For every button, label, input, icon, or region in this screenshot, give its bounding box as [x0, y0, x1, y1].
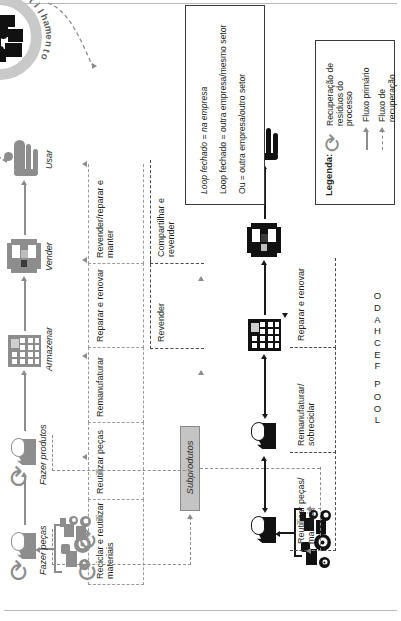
shop-icon-vender-open: [247, 223, 281, 257]
legend-box-notes: Loop fechado = na empresa Loop fechado =…: [185, 5, 265, 205]
flow-store-to-sell-open: [264, 263, 266, 315]
recovery-label-reutilizar-open: Reutilizar peças/ materiais: [296, 450, 316, 544]
arrow-usar-to-platform: [2, 157, 7, 163]
dashed-subprodutos-tap-produtos: [52, 435, 53, 471]
dashed-subprodutos-down-to-machinery: [320, 467, 321, 551]
arrow-band-reparar-open: [282, 313, 288, 318]
arrow-to-machinery-open-a: [306, 548, 311, 554]
flow-products-to-store-closed: [24, 373, 26, 431]
node-label-usar: Usar: [44, 150, 54, 169]
arrow-band-reutilizar: [82, 454, 87, 460]
arrow-open-to-vender: [198, 276, 204, 281]
axis-text-closed: LOOP FECHADO: [372, 289, 383, 425]
recycle-icon-fazer-produtos: ⟳: [6, 465, 32, 487]
dashed-subprodutos-up2: [52, 470, 191, 471]
warehouse-icon-armazenar-open: [248, 319, 281, 351]
bracket-leg-1: [54, 571, 62, 573]
legend-dashed-arrowhead: [379, 127, 385, 132]
warehouse-icon-armazenar: [8, 335, 41, 367]
arrow-products-to-store-open: [261, 354, 267, 359]
dashed-into-subprodutos-left: [190, 517, 191, 565]
shop-icon-vender: [7, 239, 41, 273]
dashed-machinery-stub-a: [312, 550, 321, 551]
legend-solid-arrow-icon: [366, 130, 368, 150]
legend-box-symbols: Legenda: ⟳ Recuperação de resíduos do pr…: [315, 40, 395, 205]
dashed-machinery-stub-b: [312, 508, 321, 509]
recycle-icon-fazer-pecas: ⟳: [6, 559, 32, 581]
recovery-label-reparar: Reparar e renovar: [95, 262, 105, 342]
node-label-fazer-produtos: Fazer produtos: [38, 424, 48, 485]
arrow-band-reutil-open: [262, 508, 268, 513]
recovery-label-remanufaturar: Remanufaturar: [95, 347, 105, 417]
flow-store-to-sell-closed: [24, 279, 26, 331]
arrow-parts-to-products-open: [261, 456, 267, 461]
legend-note-0: Loop fechado = na empresa: [200, 9, 210, 194]
flow-products-to-store-open: [264, 357, 266, 415]
bracket-leg-1-open: [294, 555, 302, 557]
legend-item-label-2: Fluxo de recuperação: [378, 42, 397, 122]
recovery-label-revender-manter: Revender/reparar e manter: [95, 166, 115, 258]
legend-dashed-arrow-icon: [382, 130, 383, 150]
arrow-platform-to-usar-open: [92, 63, 97, 69]
subprodutos-label: Subprodutos: [185, 425, 196, 510]
arrow-store-to-sell-closed: [21, 276, 27, 281]
factory-icon-fazer-pecas-open: [252, 515, 276, 547]
diagram-canvas: LOOP FECHADO LOOP ABERTO ⟳ ⟳ ⟳ Fazer p: [0, 0, 401, 621]
arrow-sell-to-use-closed: [21, 180, 27, 185]
flow-sell-to-use-closed: [24, 183, 26, 235]
legend-note-1: Loop fechado = outra empresa/mesmo setor: [219, 9, 229, 194]
arrow-products-to-store-closed: [21, 370, 27, 375]
recovery-label-compartilhar: Compartilhar e revender: [156, 161, 176, 257]
flow-parts-to-products-open: [264, 459, 266, 509]
recovery-label-reutilizar: Reutilizar peças: [95, 424, 105, 494]
dashed-subprodutos-tap-pecas: [52, 529, 53, 565]
dashed-subprodutos-up: [52, 564, 191, 565]
legend-note-2: Ou = outra empresa/outro setor: [238, 9, 248, 194]
recovery-label-reparar-open: Reparar e renovar: [296, 257, 306, 341]
figure-page: LOOP FECHADO LOOP ABERTO ⟳ ⟳ ⟳ Fazer p: [0, 0, 401, 621]
legend-item-label-0: Recuperação de resíduos do processo: [326, 44, 355, 126]
arrow-open-to-armazenar: [198, 370, 204, 375]
bracket-leg-2: [54, 524, 62, 526]
subprodutos-box: Subprodutos: [180, 426, 200, 511]
recovery-label-revender-open: Revender: [156, 260, 166, 342]
dashed-subprodutos-down: [200, 468, 320, 469]
node-label-armazenar: Armazenar: [44, 327, 54, 371]
divider-top: [4, 610, 397, 611]
arrow-band-remanu-open: [262, 414, 268, 419]
axis-label-loop-fechado: LOOP FECHADO: [372, 289, 383, 425]
legend-recycle-arrow-icon: ⟳: [322, 134, 344, 152]
recovery-label-reciclar: Reciclar e reutilizar materiais: [95, 501, 115, 579]
node-label-vender: Vender: [44, 242, 54, 271]
arrow-store-to-sell-open: [261, 260, 267, 265]
arrow-band-remanufaturar: [82, 353, 87, 359]
arrow-band-reparar: [82, 257, 87, 263]
factory-icon-fazer-produtos-open: [252, 421, 276, 453]
arrow-to-machinery-open-b: [306, 506, 311, 512]
arrow-band-revender-manter: [82, 161, 87, 167]
recovery-label-remanufaturar-open: Remanufaturar/ sobreciclar: [296, 348, 316, 446]
arrow-into-subprodutos: [187, 514, 193, 519]
node-label-fazer-pecas: Fazer peças: [38, 525, 48, 575]
legend-solid-arrowhead: [363, 127, 369, 132]
legend-title: Legenda:: [324, 154, 335, 196]
arrow-band-reciclar: [82, 546, 87, 552]
legend-item-label-1: Fluxo primário: [362, 42, 372, 122]
